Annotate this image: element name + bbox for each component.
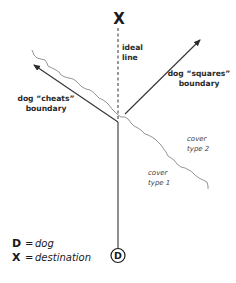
legend: D = dog X = destination (12, 237, 91, 264)
legend-meaning: dog (35, 238, 54, 249)
cover-type-1-label-1: cover (148, 169, 169, 177)
ideal-line-label-2: line (122, 53, 138, 62)
legend-symbol: X (12, 251, 21, 264)
diagram-canvas: X ideal line dog “cheats” boundary dog “… (0, 0, 236, 283)
dog-path-diagram: X ideal line dog “cheats” boundary dog “… (0, 0, 236, 283)
legend-item-dog: D = dog (12, 237, 54, 250)
cheats-label-1: dog “cheats” (17, 94, 74, 103)
legend-meaning: destination (35, 252, 91, 263)
dog-marker: D (114, 250, 122, 261)
squares-label-1: dog “squares” (168, 69, 231, 78)
cheats-label-2: boundary (26, 104, 67, 113)
legend-equals: = (25, 252, 33, 263)
legend-equals: = (25, 238, 33, 249)
cover-type-1-label-2: type 1 (148, 179, 170, 187)
squares-label-2: boundary (179, 79, 220, 88)
legend-symbol: D (12, 237, 21, 250)
legend-item-destination: X = destination (12, 251, 91, 264)
ideal-line-label-1: ideal (122, 43, 143, 52)
destination-marker: X (113, 10, 125, 28)
cover-type-2-label-1: cover (187, 135, 208, 143)
cover-type-2-label-2: type 2 (187, 145, 210, 153)
